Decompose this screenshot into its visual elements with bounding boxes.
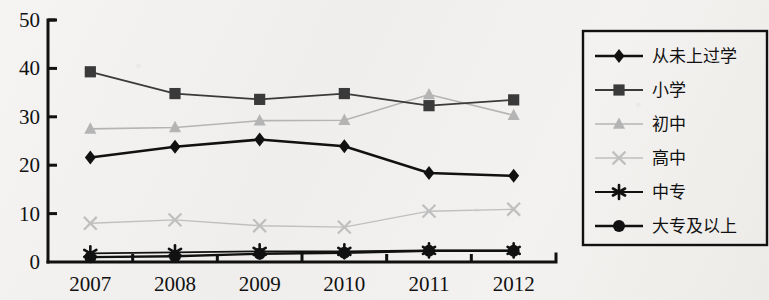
legend-item-5[interactable]: 中专 — [595, 182, 686, 202]
x-axis-tick-label: 2008 — [154, 272, 196, 296]
data-point-marker — [85, 66, 96, 77]
legend-label: 高中 — [652, 148, 686, 168]
legend-items: 从未上过学小学初中高中中专大专及以上 — [595, 46, 737, 236]
x-axis-tick-label: 2009 — [239, 272, 281, 296]
data-point-marker — [614, 49, 625, 63]
y-axis-tick-label: 50 — [19, 8, 40, 32]
data-point-marker — [423, 100, 434, 111]
data-point-marker — [508, 245, 520, 257]
x-axis-tick-label: 2012 — [493, 272, 535, 296]
x-axis-tick-label: 2007 — [69, 272, 111, 296]
chart-series — [84, 88, 519, 134]
data-point-marker — [339, 139, 350, 153]
data-point-marker — [338, 247, 350, 259]
data-point-marker — [84, 251, 96, 263]
legend-item-1[interactable]: 从未上过学 — [595, 46, 737, 66]
x-axis-tick-label: 2010 — [323, 272, 365, 296]
legend-item-6[interactable]: 大专及以上 — [595, 216, 737, 236]
y-axis-tick-label: 20 — [19, 153, 40, 177]
legend-label: 大专及以上 — [652, 216, 737, 236]
data-point-marker — [169, 88, 180, 99]
data-point-marker — [169, 250, 181, 262]
y-axis-tick-label: 30 — [19, 105, 40, 129]
legend-item-3[interactable]: 初中 — [595, 114, 686, 134]
legend-label: 从未上过学 — [652, 46, 737, 66]
data-point-marker — [423, 245, 435, 257]
data-point-marker — [508, 94, 519, 105]
chart-legend: 从未上过学小学初中高中中专大专及以上 — [583, 31, 767, 245]
data-point-marker — [254, 133, 265, 147]
x-axis: 200720082009201020112012 — [48, 254, 556, 296]
y-axis: 01020304050 — [19, 8, 57, 274]
y-axis-tick-label: 10 — [19, 202, 40, 226]
data-point-marker — [254, 114, 266, 125]
series-line — [90, 209, 513, 227]
legend-label: 小学 — [652, 80, 686, 100]
data-point-marker — [424, 166, 435, 180]
y-axis-tick-labels: 01020304050 — [19, 8, 40, 274]
chart-series — [85, 66, 520, 111]
data-point-marker — [85, 150, 96, 164]
chart-series — [85, 133, 519, 183]
legend-item-2[interactable]: 小学 — [595, 80, 686, 100]
data-point-marker — [170, 140, 181, 154]
series-line — [90, 95, 513, 129]
data-point-marker — [339, 88, 350, 99]
data-point-marker — [613, 117, 625, 128]
data-point-marker — [254, 248, 266, 260]
legend-item-4[interactable]: 高中 — [595, 148, 686, 168]
x-axis-tick-labels: 200720082009201020112012 — [69, 272, 534, 296]
data-point-marker — [84, 122, 96, 133]
data-point-marker — [613, 84, 624, 95]
legend-label: 初中 — [652, 114, 686, 134]
data-point-marker — [254, 94, 265, 105]
chart-canvas: 01020304050 200720082009201020112012 从未上… — [0, 0, 769, 300]
x-axis-tick-label: 2011 — [408, 272, 449, 296]
y-axis-tick-label: 0 — [30, 250, 41, 274]
legend-label: 中专 — [652, 182, 686, 202]
series-line — [90, 140, 513, 176]
y-axis-tick-label: 40 — [19, 56, 40, 80]
line-chart: 01020304050 200720082009201020112012 从未上… — [0, 0, 769, 300]
series-layer — [84, 66, 520, 263]
data-point-marker — [613, 220, 625, 232]
data-point-marker — [423, 88, 435, 99]
data-point-marker — [508, 169, 519, 183]
series-line — [90, 72, 513, 106]
chart-series — [84, 203, 520, 234]
